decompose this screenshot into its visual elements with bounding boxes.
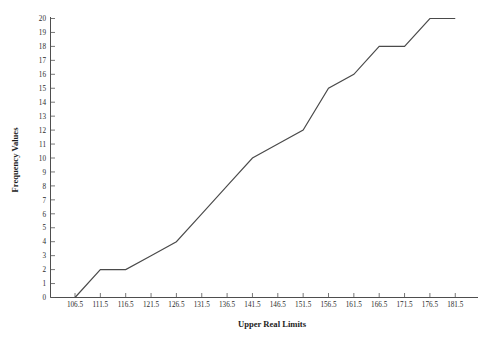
y-tick-label: 10 xyxy=(39,155,47,163)
y-tick-label: 18 xyxy=(39,43,47,51)
y-tick-group: 01234567891011121314151617181920 xyxy=(39,15,55,302)
y-tick-label: 8 xyxy=(42,183,46,191)
y-tick-label: 15 xyxy=(39,85,47,93)
frequency-polygon-line xyxy=(75,19,455,298)
y-tick-label: 3 xyxy=(42,252,46,260)
x-tick-label: 141.5 xyxy=(244,301,261,309)
x-tick-label: 166.5 xyxy=(371,301,388,309)
y-tick-label: 11 xyxy=(39,141,46,149)
y-tick-label: 0 xyxy=(42,294,46,302)
y-tick-label: 16 xyxy=(39,71,47,79)
frequency-polygon-chart: Frequency Values Upper Real Limits 01234… xyxy=(0,0,487,342)
y-tick-label: 7 xyxy=(42,197,46,205)
x-tick-label: 156.5 xyxy=(320,301,337,309)
x-tick-label: 131.5 xyxy=(194,301,211,309)
x-tick-label: 106.5 xyxy=(67,301,84,309)
y-tick-label: 1 xyxy=(42,280,46,288)
y-tick-label: 4 xyxy=(42,238,46,246)
x-tick-label: 176.5 xyxy=(422,301,439,309)
y-tick-label: 19 xyxy=(39,29,47,37)
chart-axes xyxy=(51,17,479,298)
data-series-group xyxy=(75,19,455,298)
x-tick-label: 121.5 xyxy=(143,301,160,309)
y-tick-label: 6 xyxy=(42,211,46,219)
x-axis-title: Upper Real Limits xyxy=(238,319,307,329)
chart-container: Frequency Values Upper Real Limits 01234… xyxy=(0,0,487,342)
y-tick-label: 20 xyxy=(39,15,47,23)
y-tick-label: 12 xyxy=(39,127,47,135)
x-tick-label: 116.5 xyxy=(118,301,134,309)
y-tick-label: 17 xyxy=(39,57,47,65)
y-tick-label: 2 xyxy=(42,266,46,274)
y-axis-title: Frequency Values xyxy=(10,127,20,193)
x-tick-label: 181.5 xyxy=(447,301,464,309)
x-tick-label: 136.5 xyxy=(219,301,236,309)
x-tick-label: 111.5 xyxy=(93,301,109,309)
x-tick-group: 106.5111.5116.5121.5126.5131.5136.5141.5… xyxy=(67,293,464,309)
y-tick-label: 5 xyxy=(42,224,46,232)
y-tick-label: 9 xyxy=(42,169,46,177)
x-tick-label: 151.5 xyxy=(295,301,312,309)
y-tick-label: 14 xyxy=(39,99,47,107)
x-tick-label: 161.5 xyxy=(346,301,363,309)
y-tick-label: 13 xyxy=(39,113,47,121)
x-tick-label: 126.5 xyxy=(168,301,185,309)
x-tick-label: 171.5 xyxy=(396,301,413,309)
x-tick-label: 146.5 xyxy=(270,301,287,309)
